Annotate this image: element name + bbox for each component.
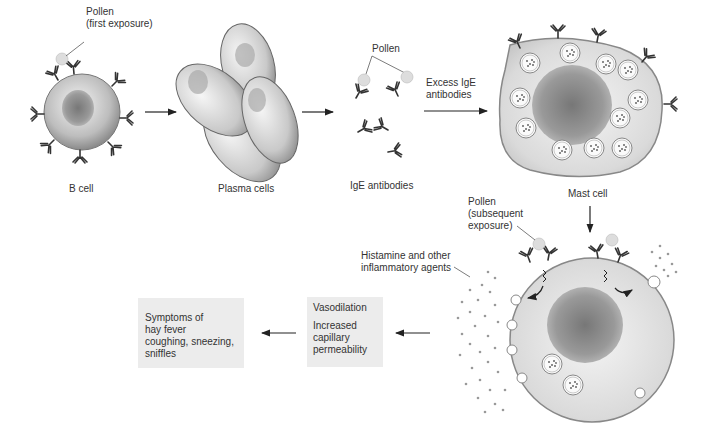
symptoms-line2: hay fever — [145, 324, 244, 336]
symptoms-line3: coughing, sneezing, — [145, 336, 244, 348]
histamine-line1: Histamine and other — [361, 250, 451, 262]
vasodilation-line3: capillary — [313, 332, 379, 344]
vasodilation-line1: Vasodilation — [313, 302, 379, 314]
pollen-subsequent-line1: Pollen — [468, 196, 523, 208]
vasodilation-box: Vasodilation Increased capillary permeab… — [307, 297, 383, 367]
excess-ige-line1: Excess IgE — [426, 77, 476, 89]
pollen-first-line2: (first exposure) — [86, 18, 153, 30]
pollen-subsequent-line2: (subsequent — [468, 208, 523, 220]
b-cell-illustration — [31, 42, 133, 163]
symptoms-line1: Symptoms of — [145, 312, 244, 324]
b-cell-label: B cell — [69, 183, 93, 195]
mast-cell-illustration — [500, 25, 677, 177]
plasma-cells-label: Plasma cells — [218, 183, 274, 195]
symptoms-line4: sniffles — [145, 348, 244, 360]
pollen-subsequent-label: Pollen (subsequent exposure) — [468, 196, 523, 232]
degranulating-mast-cell-illustration — [507, 226, 674, 422]
excess-ige-label: Excess IgE antibodies — [426, 77, 476, 101]
plasma-cells-illustration — [163, 18, 309, 196]
histamine-label: Histamine and other inflammatory agents — [361, 250, 451, 274]
histamine-line2: inflammatory agents — [361, 262, 451, 274]
mast-cell-label: Mast cell — [568, 188, 607, 200]
pollen-ige-label: Pollen — [372, 43, 400, 55]
ige-antibodies-label: IgE antibodies — [350, 180, 413, 192]
vasodilation-line4: permeability — [313, 344, 379, 356]
pollen-first-exposure-label: Pollen (first exposure) — [86, 6, 153, 30]
ige-antibodies-illustration — [350, 56, 413, 159]
vasodilation-line2: Increased — [313, 320, 379, 332]
excess-ige-line2: antibodies — [426, 89, 476, 101]
pollen-first-line1: Pollen — [86, 6, 153, 18]
symptoms-box: Symptoms of hay fever coughing, sneezing… — [138, 298, 244, 368]
pollen-subsequent-line3: exposure) — [468, 220, 523, 232]
